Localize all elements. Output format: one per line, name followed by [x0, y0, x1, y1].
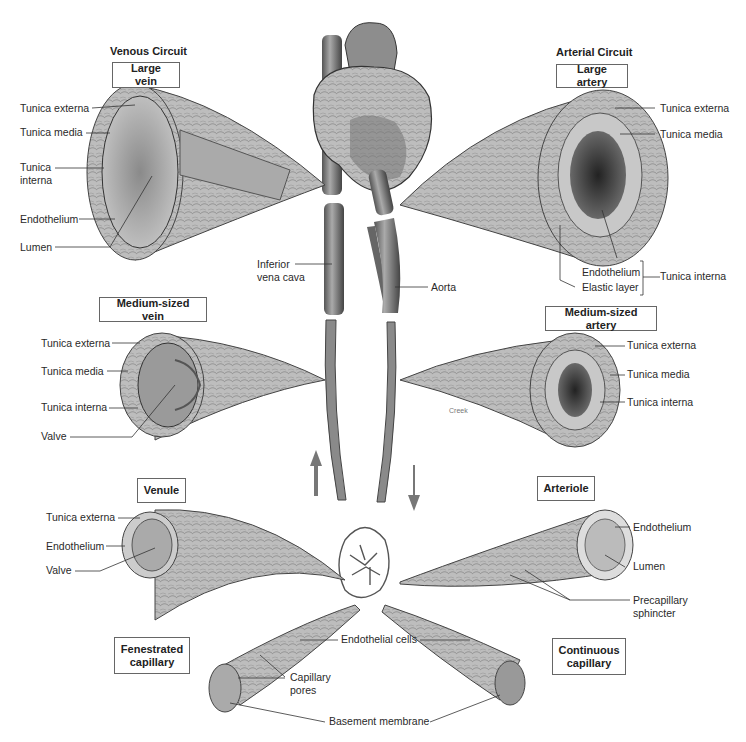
label-tunica-interna-bracket: Tunica interna	[660, 270, 726, 283]
label-tunica-externa: Tunica externa	[20, 102, 89, 115]
medium-artery-box: Medium-sized artery	[545, 306, 657, 331]
medium-vein-box: Medium-sized vein	[99, 297, 207, 322]
label-inferior-vena-cava: Inferior vena cava	[257, 258, 307, 284]
label-endothelium: Endothelium	[582, 266, 640, 279]
venous-circuit-heading: Venous Circuit	[110, 45, 187, 57]
arrow-down-icon	[408, 465, 420, 511]
fenestrated-capillary-box: Fenestrated capillary	[114, 637, 190, 674]
continuous-capillary-box: Continuous capillary	[552, 638, 626, 675]
label-endothelium: Endothelium	[46, 540, 104, 553]
label-lumen: Lumen	[633, 560, 665, 573]
arterial-circuit-heading: Arterial Circuit	[556, 46, 632, 58]
large-artery-box: Large artery	[556, 64, 628, 88]
large-vein-illustration	[87, 84, 325, 260]
medium-artery-illustration	[400, 333, 620, 447]
label-tunica-interna: Tunica interna	[627, 396, 693, 409]
label-tunica-interna: Tunica interna	[41, 401, 107, 414]
label-endothelium: Endothelium	[20, 213, 78, 226]
arteriole-illustration	[400, 510, 633, 586]
label-tunica-media: Tunica media	[20, 126, 83, 139]
label-endothelium: Endothelium	[633, 521, 691, 534]
label-aorta: Aorta	[431, 281, 456, 294]
watermark-text: Creek	[449, 404, 468, 417]
label-elastic-layer: Elastic layer	[582, 281, 639, 294]
venule-box: Venule	[137, 478, 186, 503]
arrow-up-icon	[310, 450, 322, 496]
large-vein-box: Large vein	[112, 62, 180, 88]
label-tunica-media: Tunica media	[660, 128, 723, 141]
label-tunica-externa: Tunica externa	[660, 102, 729, 115]
label-valve: Valve	[41, 430, 67, 443]
heart-illustration	[313, 23, 431, 217]
label-basement-membrane: Basement membrane	[329, 715, 429, 728]
label-tunica-externa: Tunica externa	[46, 511, 115, 524]
large-artery-illustration	[400, 90, 668, 266]
label-tunica-interna: Tunica interna	[20, 161, 60, 187]
inferior-vena-cava	[324, 203, 344, 315]
label-tunica-media: Tunica media	[41, 365, 104, 378]
label-lumen: Lumen	[20, 241, 52, 254]
label-valve: Valve	[46, 564, 72, 577]
label-endothelial-cells: Endothelial cells	[341, 633, 417, 646]
arteriole-box: Arteriole	[537, 476, 595, 501]
medium-vein-illustration	[120, 333, 325, 440]
label-tunica-media: Tunica media	[627, 368, 690, 381]
continuous-capillary-illustration	[382, 605, 525, 705]
label-capillary-pores: Capillary pores	[290, 671, 340, 697]
capillary-bed	[339, 528, 389, 598]
label-tunica-externa: Tunica externa	[41, 337, 110, 350]
label-precapillary-sphincter: Precapillary sphincter	[633, 594, 693, 620]
label-tunica-externa: Tunica externa	[627, 339, 696, 352]
venule-illustration	[122, 510, 345, 620]
